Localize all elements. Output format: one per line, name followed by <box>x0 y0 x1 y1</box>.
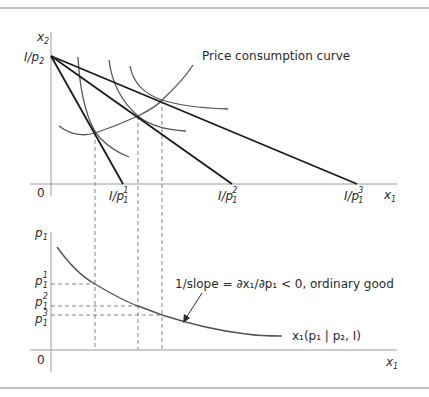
y-intercept-label: I/p2 <box>24 50 44 66</box>
x-intercept-label-3: I/p31 <box>344 186 363 205</box>
top-panel: x2 I/p2 0 x1 I/p11 I/p21 I/p31 Price con… <box>24 30 397 350</box>
price-consumption-curve-label: Price consumption curve <box>202 49 350 63</box>
price-level-label-3: p31 <box>34 309 48 328</box>
bottom-origin-label: 0 <box>37 353 45 367</box>
x-intercept-label-2: I/p21 <box>218 186 237 205</box>
price-level-label-1: p11 <box>34 271 48 290</box>
dashed-guides <box>95 100 162 350</box>
demand-curve-label: x₁(p₁ | p₂, I) <box>292 329 361 343</box>
x-intercept-label-1: I/p11 <box>109 186 128 205</box>
top-x-axis-label: x1 <box>383 188 396 204</box>
budget-lines <box>51 56 357 184</box>
annotation-arrow-line <box>186 293 202 318</box>
demand-curve <box>57 247 282 336</box>
slope-annotation: 1/slope = ∂x₁/∂p₁ < 0, ordinary good <box>175 277 394 291</box>
price-consumption-diagram: x2 I/p2 0 x1 I/p11 I/p21 I/p31 Price con… <box>0 0 429 397</box>
bottom-x-axis-label: x1 <box>385 355 398 371</box>
top-origin-label: 0 <box>37 186 45 200</box>
bottom-y-axis-label: p1 <box>34 226 48 242</box>
indifference-curve-1 <box>78 57 129 157</box>
bottom-panel: p1 p11 p21 p31 0 x1 1/slope = ∂x₁/∂p₁ < … <box>30 226 398 372</box>
indifference-curve-3 <box>130 66 228 109</box>
top-y-axis-label: x2 <box>36 30 49 46</box>
price-guides <box>51 284 162 315</box>
